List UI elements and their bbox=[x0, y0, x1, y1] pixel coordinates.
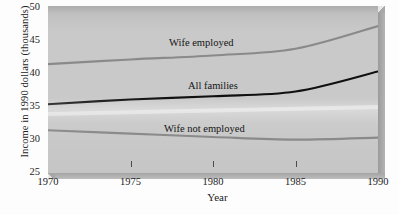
series-annotation-wife-not-employed: Wife not employed bbox=[164, 123, 245, 134]
x-tick-mark-1985 bbox=[296, 161, 297, 167]
x-tick-label-1990: 1990 bbox=[358, 176, 398, 187]
x-tick-mark-1980 bbox=[213, 161, 214, 167]
y-tick-label-40: 40 bbox=[14, 67, 40, 78]
x-tick-label-1980: 1980 bbox=[193, 176, 233, 187]
x-axis-title-text: Year bbox=[207, 191, 227, 203]
x-tick-label-1970: 1970 bbox=[28, 176, 68, 187]
y-tick-label-30: 30 bbox=[14, 133, 40, 144]
y-tick-label-45: 45 bbox=[14, 34, 40, 45]
series-annotation-all-families: All families bbox=[188, 80, 238, 91]
panel-shadow-right bbox=[378, 12, 385, 179]
figure-chart-family-income: Income in 1990 dollars (thousands) 50 45… bbox=[0, 0, 399, 215]
y-tick-label-50: 50 bbox=[14, 1, 40, 12]
y-tick-label-35: 35 bbox=[14, 100, 40, 111]
panel-shadow-corner-top-right bbox=[378, 6, 385, 13]
y-axis-title: Income in 1990 dollars (thousands) bbox=[19, 0, 30, 170]
x-tick-label-1975: 1975 bbox=[111, 176, 151, 187]
series-annotation-wife-employed: Wife employed bbox=[169, 37, 234, 48]
scan-artifact-band bbox=[48, 107, 378, 114]
x-tick-label-1985: 1985 bbox=[276, 176, 316, 187]
x-axis-title: Year bbox=[0, 191, 399, 203]
x-tick-mark-1975 bbox=[131, 161, 132, 167]
